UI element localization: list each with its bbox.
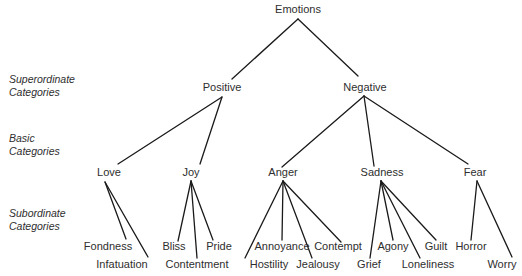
tree-edges	[0, 0, 522, 276]
node-annoyance: Annoyance	[254, 240, 309, 253]
level-label-line: Categories	[9, 220, 66, 233]
level-label-basic: Basic Categories	[9, 132, 60, 158]
node-emotions: Emotions	[275, 3, 321, 16]
node-guilt: Guilt	[425, 240, 448, 253]
node-infatuation: Infatuation	[96, 258, 147, 271]
node-loneliness: Loneliness	[402, 258, 455, 271]
node-horror: Horror	[455, 240, 486, 253]
level-label-line: Categories	[9, 145, 60, 158]
level-label-line: Categories	[9, 86, 75, 99]
node-contempt: Contempt	[314, 240, 362, 253]
node-grief: Grief	[357, 258, 381, 271]
node-love: Love	[97, 166, 121, 179]
node-agony: Agony	[377, 240, 408, 253]
node-hostility: Hostility	[250, 258, 289, 271]
node-contentment: Contentment	[166, 258, 229, 271]
emotion-hierarchy-diagram: Superordinate Categories Basic Categorie…	[0, 0, 522, 276]
node-anger: Anger	[268, 166, 297, 179]
node-positive: Positive	[203, 81, 242, 94]
level-label-superordinate: Superordinate Categories	[9, 73, 75, 99]
node-fear: Fear	[464, 166, 487, 179]
node-worry: Worry	[487, 258, 516, 271]
node-negative: Negative	[343, 81, 386, 94]
node-joy: Joy	[182, 166, 199, 179]
node-jealousy: Jealousy	[296, 258, 339, 271]
node-pride: Pride	[206, 240, 232, 253]
node-bliss: Bliss	[162, 240, 185, 253]
level-label-subordinate: Subordinate Categories	[9, 207, 66, 233]
node-fondness: Fondness	[84, 240, 132, 253]
level-label-line: Superordinate	[9, 73, 75, 86]
node-sadness: Sadness	[361, 166, 404, 179]
level-label-line: Basic	[9, 132, 60, 145]
level-label-line: Subordinate	[9, 207, 66, 220]
